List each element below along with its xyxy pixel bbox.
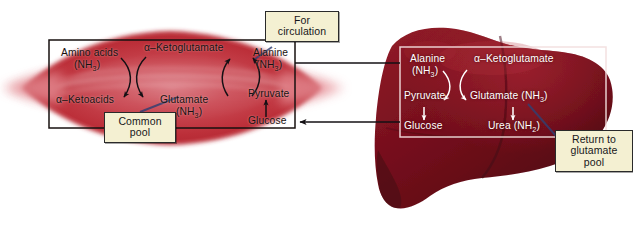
muscle-label-glucose: Glucose [248, 115, 286, 126]
callout-line-3: pool [561, 157, 627, 169]
liver-label-alanine-nh3: (NH3) [412, 65, 438, 79]
muscle-label-ketoglutamate: α–Ketoglutamate [144, 42, 224, 53]
liver-label-glutamate: Glutamate (NH3) [470, 90, 548, 104]
liver-label-ketoglutamate: α–Ketoglutamate [474, 53, 554, 64]
liver-label-glucose: Glucose [404, 120, 442, 131]
muscle-label-ketoacids: α–Ketoacids [56, 94, 114, 105]
callout-line-2: pool [110, 127, 170, 139]
muscle-label-amino-acids-nh3: (NH3) [74, 59, 100, 73]
muscle-label-alanine: Alanine [253, 47, 288, 58]
callout-line-2: glutamate [561, 145, 627, 157]
callout-return-to-glutamate-pool: Return to glutamate pool [555, 130, 633, 172]
liver-label-alanine: Alanine [410, 53, 445, 64]
callout-for-circulation: For circulation [265, 11, 339, 42]
liver-label-pyruvate: Pyruvate [404, 90, 445, 101]
muscle-label-glutamate-nh3: (NH3) [176, 106, 202, 120]
muscle-label-pyruvate: Pyruvate [248, 88, 289, 99]
callout-line-2: circulation [271, 26, 333, 38]
liver-label-urea: Urea (NH2) [488, 120, 540, 134]
muscle-label-alanine-nh3: (NH3) [256, 59, 282, 73]
muscle-label-glutamate: Glutamate [160, 94, 208, 105]
callout-common-pool: Common pool [104, 112, 176, 143]
muscle-label-amino-acids: Amino acids [61, 47, 118, 58]
